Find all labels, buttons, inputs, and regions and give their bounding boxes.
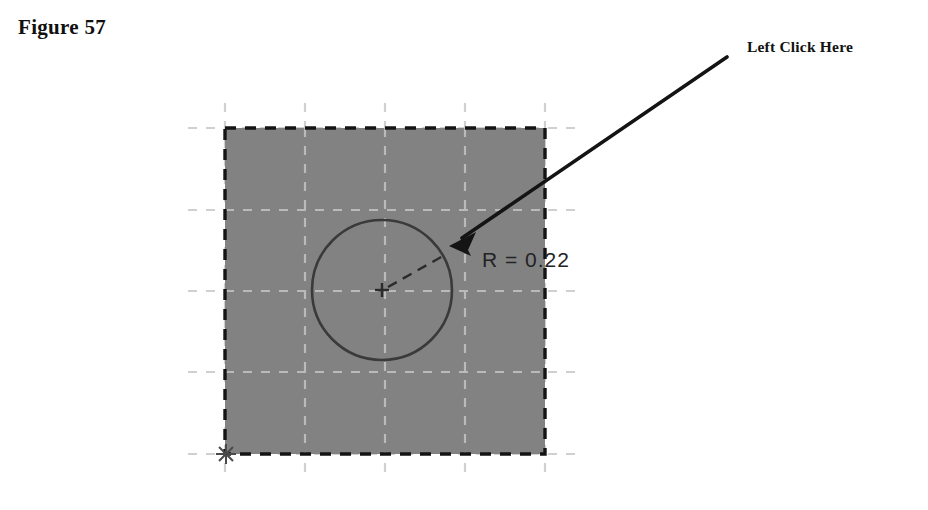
cad-sketch-canvas[interactable] [0,0,928,510]
radius-dimension-label[interactable]: R = 0.22 [482,248,570,272]
callout-label: Left Click Here [747,38,853,56]
figure-root: Figure 57 [0,0,928,510]
origin-marker-icon [216,444,236,464]
